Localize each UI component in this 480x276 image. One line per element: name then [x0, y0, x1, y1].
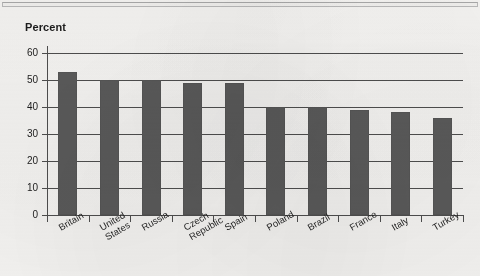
x-label-britain: Britain	[57, 211, 86, 234]
x-axis-category-labels: BritainUnited StatesRussiaCzech Republic…	[0, 0, 480, 276]
x-label-czech-republic: Czech Republic	[182, 206, 225, 243]
x-label-spain: Spain	[223, 212, 249, 233]
x-label-united-states: United States	[98, 210, 132, 242]
chart-screenshot: Percent 0102030405060 BritainUnited Stat…	[0, 0, 480, 276]
x-label-poland: Poland	[265, 209, 296, 233]
x-label-italy: Italy	[390, 215, 410, 233]
x-label-turkey: Turkey	[431, 210, 461, 233]
x-label-france: France	[348, 209, 379, 233]
x-label-brazil: Brazil	[306, 212, 332, 233]
x-label-russia: Russia	[140, 209, 170, 233]
